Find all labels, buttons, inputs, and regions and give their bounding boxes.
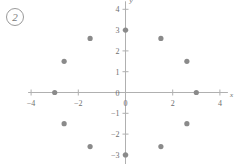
data-point xyxy=(88,36,93,41)
data-point xyxy=(62,121,67,126)
data-point xyxy=(52,90,57,95)
scatter-plot: −4−2024−4−3−2−101234xy xyxy=(0,0,234,164)
data-point xyxy=(184,121,189,126)
data-point xyxy=(88,144,93,149)
y-tick-label: −3 xyxy=(111,151,120,160)
data-point xyxy=(184,59,189,64)
figure-container: 2 −4−2024−4−3−2−101234xy xyxy=(0,0,234,164)
data-point xyxy=(123,28,128,33)
y-tick-label: 1 xyxy=(116,68,120,77)
y-tick-label: 3 xyxy=(116,26,120,35)
x-axis-label: x xyxy=(229,91,234,99)
x-tick-label: 0 xyxy=(124,99,128,108)
data-point xyxy=(62,59,67,64)
y-tick-label: 2 xyxy=(116,47,120,56)
y-tick-label: −2 xyxy=(111,130,120,139)
data-point xyxy=(123,152,128,157)
y-tick-label: −1 xyxy=(111,109,120,118)
y-tick-label: 4 xyxy=(116,5,120,14)
y-axis-label: y xyxy=(129,0,134,5)
y-tick-label: 0 xyxy=(116,89,120,98)
data-point xyxy=(158,36,163,41)
x-tick-label: 2 xyxy=(171,99,175,108)
x-tick-label: 4 xyxy=(218,99,222,108)
data-point xyxy=(194,90,199,95)
x-tick-label: −2 xyxy=(74,99,83,108)
data-point xyxy=(158,144,163,149)
x-tick-label: −4 xyxy=(27,99,36,108)
